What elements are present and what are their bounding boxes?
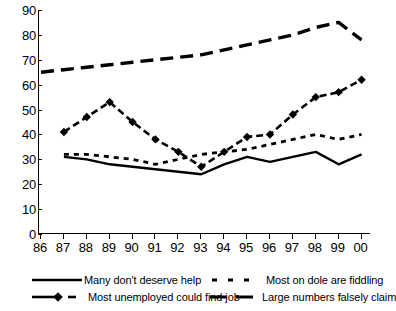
x-tick-mark <box>86 234 87 239</box>
solid-line-swatch <box>32 273 84 287</box>
y-tick-label: 90 <box>6 4 36 17</box>
series-marker <box>243 133 251 141</box>
x-tick-mark <box>292 234 293 239</box>
legend-label: Large numbers falsely claim <box>262 291 396 303</box>
legend-label: Many don't deserve help <box>84 274 201 286</box>
x-tick-mark <box>63 234 64 239</box>
legend-label: Most on dole are fiddling <box>262 274 383 286</box>
diamond-dashed-line-swatch <box>32 290 84 304</box>
y-tick-label: 60 <box>6 79 36 92</box>
x-tick-mark <box>109 234 110 239</box>
legend-item-most-unemployed-could-find-job[interactable]: Most unemployed could find job <box>32 288 240 305</box>
x-tick-mark <box>177 234 178 239</box>
legend-item-large-numbers-falsely-claim[interactable]: Large numbers falsely claim <box>210 288 396 305</box>
series-line <box>64 152 362 174</box>
y-tick-mark <box>38 159 42 160</box>
y-tick-label: 80 <box>6 29 36 42</box>
y-tick-mark <box>38 10 42 11</box>
y-tick-label: 30 <box>6 153 36 166</box>
y-tick-label: 10 <box>6 203 36 216</box>
y-tick-label: 50 <box>6 104 36 117</box>
dashed-line-swatch <box>210 273 262 287</box>
y-tick-mark <box>38 85 42 86</box>
y-tick-mark <box>38 184 42 185</box>
x-tick-mark <box>132 234 133 239</box>
y-axis: 9080706050403020100 <box>0 0 36 244</box>
x-tick-mark <box>338 234 339 239</box>
x-tick-label: 00 <box>346 241 376 255</box>
x-tick-mark <box>246 234 247 239</box>
y-tick-label: 20 <box>6 178 36 191</box>
series-marker <box>266 130 274 138</box>
y-tick-mark <box>38 209 42 210</box>
x-tick-mark <box>361 234 362 239</box>
x-tick-mark <box>154 234 155 239</box>
legend-item-most-on-dole-are-fiddling[interactable]: Most on dole are fiddling <box>210 271 383 288</box>
y-tick-mark <box>38 35 42 36</box>
y-tick-mark <box>38 60 42 61</box>
legend-row: Most unemployed could find job Large num… <box>32 288 372 305</box>
legend-row: Many don't deserve help Most on dole are… <box>32 271 372 288</box>
x-tick-mark <box>40 234 41 239</box>
x-tick-mark <box>223 234 224 239</box>
x-tick-mark <box>315 234 316 239</box>
y-tick-label: 0 <box>6 228 36 241</box>
y-tick-mark <box>38 134 42 135</box>
y-tick-label: 40 <box>6 128 36 141</box>
series-marker <box>151 135 159 143</box>
series-marker <box>357 75 365 83</box>
series-canvas <box>39 10 371 234</box>
x-tick-mark <box>200 234 201 239</box>
series-line <box>41 22 362 72</box>
legend: Many don't deserve help Most on dole are… <box>32 271 372 309</box>
y-tick-label: 70 <box>6 54 36 67</box>
plot-area <box>38 10 370 234</box>
legend-item-many-dont-deserve-help[interactable]: Many don't deserve help <box>32 271 201 288</box>
thick-dashed-line-swatch <box>210 290 262 304</box>
y-tick-mark <box>38 110 42 111</box>
x-tick-mark <box>269 234 270 239</box>
